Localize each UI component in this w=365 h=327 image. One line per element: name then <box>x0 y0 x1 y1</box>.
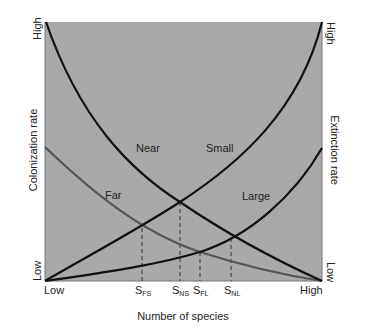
x-high: High <box>300 284 323 296</box>
plot-area <box>45 22 322 281</box>
label-sns: SNS <box>172 284 189 297</box>
label-snl: SNL <box>224 284 240 297</box>
label-large: Large <box>242 190 270 202</box>
y-left-title: Colonization rate <box>27 109 39 192</box>
x-title: Number of species <box>137 310 229 322</box>
label-far: Far <box>105 189 122 201</box>
y-left-low: Low <box>31 261 43 281</box>
x-low: Low <box>44 284 64 296</box>
y-right-low: Low <box>325 262 337 282</box>
label-near: Near <box>136 142 160 154</box>
y-left-high: High <box>31 17 43 40</box>
y-right-title: Extinction rate <box>329 115 341 185</box>
label-sfs: SFS <box>135 284 152 297</box>
label-small: Small <box>206 142 234 154</box>
label-sfl: SFL <box>193 284 209 297</box>
island-biogeography-chart: Near Small Far Large High Low Colonizati… <box>0 0 365 327</box>
y-right-high: High <box>325 22 337 45</box>
